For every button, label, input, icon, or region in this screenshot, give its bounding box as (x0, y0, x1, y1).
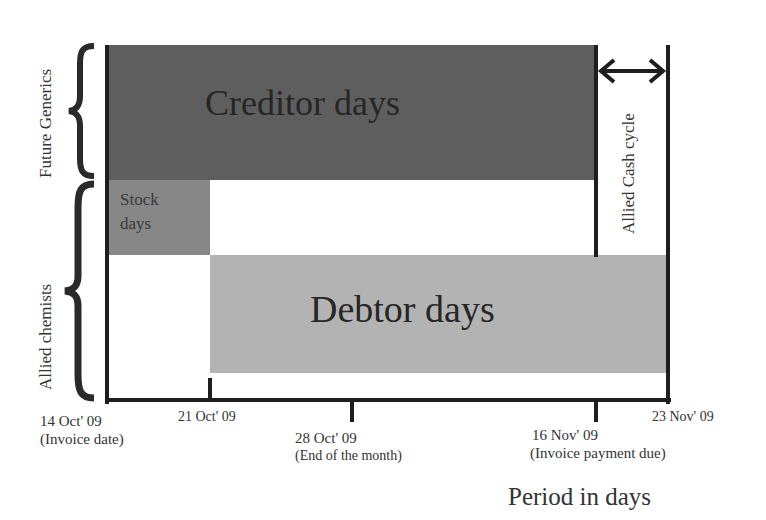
axis-title: Period in days (508, 483, 651, 511)
tick-date: 21 Oct' 09 (178, 408, 236, 426)
stock-days-label: Stock days (120, 188, 200, 236)
tick-21-oct (208, 378, 212, 400)
tick-date: 14 Oct' 09 (40, 412, 124, 430)
tick-label-16-nov: 16 Nov' 09 (Invoice payment due) (530, 426, 666, 462)
stock-days-label-line2: days (120, 212, 200, 236)
stock-days-label-line1: Stock (120, 188, 200, 212)
allied-chemists-label: Allied chemists (36, 284, 56, 390)
tick-note: (Invoice date) (40, 430, 124, 448)
allied-cash-cycle-label: Allied Cash cycle (619, 113, 639, 234)
future-generics-label: Future Generics (36, 69, 56, 178)
end-line-23-nov (666, 45, 670, 404)
debtor-days-label: Debtor days (310, 287, 495, 331)
left-axis-line (105, 45, 109, 404)
tick-label-14-oct: 14 Oct' 09 (Invoice date) (40, 412, 124, 448)
double-arrow-icon (598, 58, 666, 84)
tick-date: 28 Oct' 09 (295, 429, 402, 447)
tick-note: (End of the month) (295, 447, 402, 465)
time-axis-line (105, 398, 671, 402)
tick-note: (Invoice payment due) (530, 444, 666, 462)
tick-date: 23 Nov' 09 (652, 408, 714, 426)
creditor-days-label: Creditor days (205, 82, 400, 124)
brace-future-generics-icon (66, 44, 98, 178)
tick-label-21-oct: 21 Oct' 09 (178, 408, 236, 426)
tick-28-oct (350, 400, 354, 422)
brace-allied-chemists-icon (62, 182, 98, 400)
tick-label-28-oct: 28 Oct' 09 (End of the month) (295, 429, 402, 465)
tick-date: 16 Nov' 09 (530, 426, 666, 444)
tick-label-23-nov: 23 Nov' 09 (652, 408, 714, 426)
tick-16-nov (594, 400, 598, 422)
